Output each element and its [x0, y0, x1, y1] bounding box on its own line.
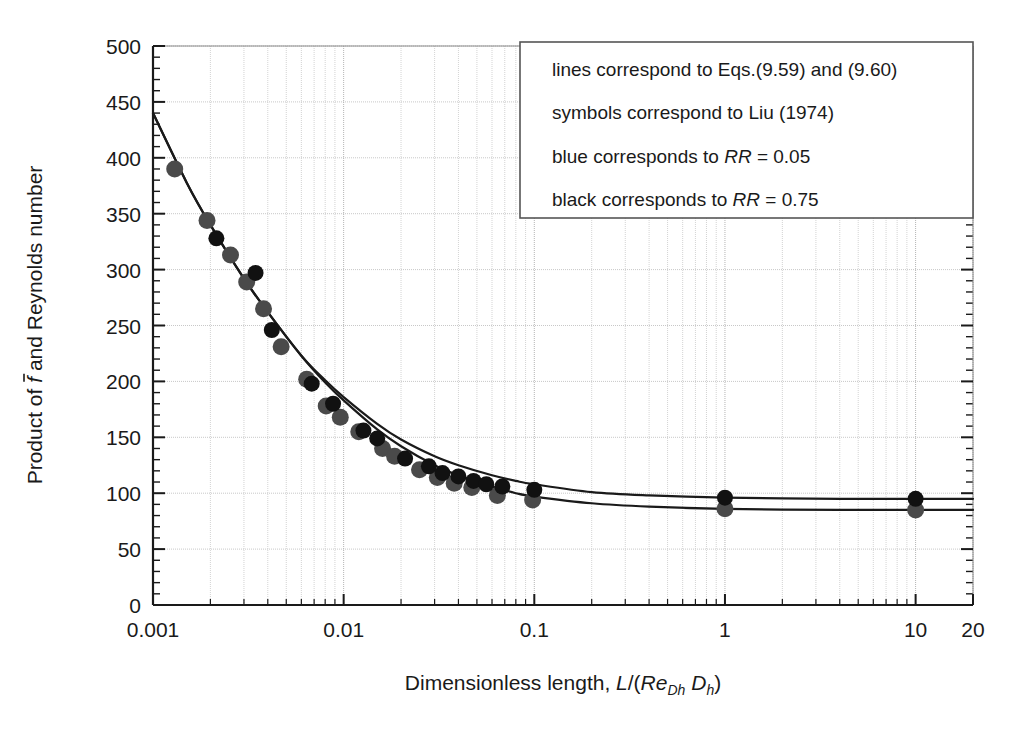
y-tick-label: 300 [106, 259, 141, 282]
y-tick-label: 0 [129, 594, 141, 617]
data-point-marker [208, 230, 224, 246]
y-tick-label: 100 [106, 482, 141, 505]
y-title-part-b: and Reynolds number [23, 166, 46, 377]
y-axis-title: Product of f and Reynolds number [23, 166, 46, 485]
legend-text-pre: black corresponds to [552, 189, 733, 210]
x-title-slash: /( [628, 671, 641, 694]
x-title-D: D [691, 671, 706, 694]
y-tick-label: 50 [118, 538, 141, 561]
data-point-marker [494, 478, 510, 494]
data-point-marker [450, 468, 466, 484]
y-tick-label: 400 [106, 147, 141, 170]
y-tick-label: 350 [106, 203, 141, 226]
legend-line-3: blue corresponds to RR = 0.05 [552, 146, 810, 167]
data-point-marker [355, 423, 371, 439]
legend-text-post: = 0.05 [752, 146, 811, 167]
chart-figure: 050100150200250300350400450500 0.0010.01… [0, 0, 1019, 735]
data-point-marker [264, 322, 280, 338]
legend-text-post: = 0.75 [760, 189, 819, 210]
legend-text-italic: RR [733, 189, 761, 210]
data-point-marker [199, 212, 216, 229]
x-title-part-a: Dimensionless length, [405, 671, 616, 694]
legend-text-pre: symbols correspond to Liu (1974) [552, 102, 834, 123]
y-tick-label: 450 [106, 91, 141, 114]
data-point-marker [273, 338, 290, 355]
data-point-marker [526, 482, 542, 498]
x-tick-label: 20 [961, 618, 984, 641]
data-point-marker [478, 476, 494, 492]
svg-text:Product of f and Reynolds numb: Product of f and Reynolds number [23, 166, 46, 485]
x-tick-label: 10 [904, 618, 927, 641]
x-tick-label: 0.001 [127, 618, 180, 641]
data-point-marker [255, 300, 272, 317]
y-title-part-a: Product of [23, 383, 46, 485]
x-title-Re: Re [641, 671, 668, 694]
legend-line-2: symbols correspond to Liu (1974) [552, 102, 834, 123]
y-tick-label: 250 [106, 315, 141, 338]
data-point-marker [421, 458, 437, 474]
x-title-D-subscript: h [706, 682, 714, 698]
data-point-marker [325, 396, 341, 412]
y-tick-label: 200 [106, 370, 141, 393]
x-title-Re-subscript: Dh [667, 682, 685, 698]
data-point-marker [369, 430, 385, 446]
data-point-marker [304, 376, 320, 392]
x-title-close-paren: ) [714, 671, 721, 694]
legend-text-pre: blue corresponds to [552, 146, 724, 167]
chart-svg: 050100150200250300350400450500 0.0010.01… [0, 0, 1019, 735]
y-tick-label: 500 [106, 35, 141, 58]
x-tick-label: 0.1 [520, 618, 549, 641]
data-point-marker [908, 491, 924, 507]
x-tick-label: 1 [719, 618, 731, 641]
legend-line-1: lines correspond to Eqs.(9.59) and (9.60… [552, 59, 897, 80]
legend-line-4: black corresponds to RR = 0.75 [552, 189, 819, 210]
data-point-marker [222, 247, 239, 264]
data-point-marker [397, 451, 413, 467]
data-point-marker [166, 160, 183, 177]
legend-text-pre: lines correspond to Eqs.(9.59) and (9.60… [552, 59, 897, 80]
data-point-marker [717, 490, 733, 506]
data-point-marker [435, 465, 451, 481]
x-tick-label: 0.01 [323, 618, 364, 641]
x-title-L: L [616, 671, 628, 694]
legend-text-italic: RR [724, 146, 752, 167]
data-point-marker [248, 265, 264, 281]
y-tick-label: 150 [106, 426, 141, 449]
legend-box: lines correspond to Eqs.(9.59) and (9.60… [520, 42, 973, 218]
